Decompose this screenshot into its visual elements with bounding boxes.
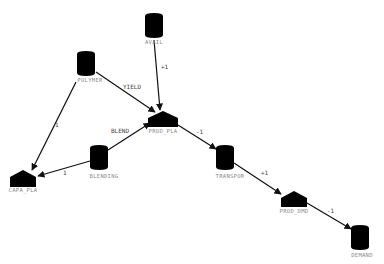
edge-blending-capa-pla[interactable]: 1 [38,161,90,176]
node-blending[interactable]: BLENDING [90,145,119,179]
edge-blending-prod-pla[interactable]: BLEND [108,123,150,150]
node-transpor[interactable]: TRANSPOR [216,145,245,179]
edge-avail-prod-pla[interactable]: +1 [154,40,169,110]
edge-polymer-capa-pla[interactable]: 1 [32,82,76,170]
cylinder-icon [77,51,95,76]
node-label: CAPA_PLA [9,187,38,194]
cylinder-icon [216,145,234,170]
edge-label: 1 [63,169,67,176]
node-label: PROD_PLA [149,128,178,135]
edge-label: -1 [327,207,335,214]
edge-polymer-prod-pla[interactable]: YIELD [96,72,155,112]
edge-label: +1 [161,63,169,70]
node-label: AVAIL [145,39,163,45]
node-polymer[interactable]: POLYMER [77,51,103,83]
house-icon [148,111,178,127]
node-label: POLYMER [77,77,103,83]
house-icon [281,191,307,207]
edge-label: BLEND [111,127,129,134]
cylinder-icon [145,13,163,38]
network-diagram: +1 YIELD 1 BLEND 1 -1 +1 [0,0,384,264]
node-label: PROD_DMD [280,208,309,215]
edge-label: +1 [261,169,269,176]
edge-label: 1 [55,121,59,128]
edge-label: -1 [196,128,204,135]
node-label: DEMAND [351,252,373,258]
edge-label: YIELD [123,83,141,90]
node-demand[interactable]: DEMAND [351,225,373,258]
house-icon [10,170,36,187]
cylinder-icon [90,145,108,170]
node-avail[interactable]: AVAIL [145,13,163,45]
node-capa-pla[interactable]: CAPA_PLA [9,170,38,194]
node-label: TRANSPOR [216,173,245,179]
cylinder-icon [351,225,369,250]
edge-prod-dmd-demand[interactable]: -1 [307,203,351,229]
node-label: BLENDING [90,173,119,179]
edge-prod-pla-transpor[interactable]: -1 [178,125,216,149]
node-prod-pla[interactable]: PROD_PLA [148,111,178,135]
nodes: AVAIL POLYMER PROD_PLA CAPA_PLA BLENDING… [9,13,373,258]
node-prod-dmd[interactable]: PROD_DMD [280,191,309,215]
